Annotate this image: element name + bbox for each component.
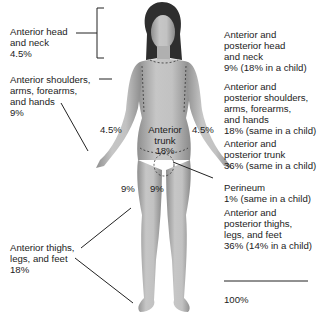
- left-arm: [96, 62, 142, 168]
- label-anterior-legs: Anterior thighs, legs, and feet 18%: [10, 242, 75, 275]
- face: [151, 15, 175, 49]
- label-anterior-arms: Anterior shoulders, arms, forearms, and …: [10, 74, 91, 118]
- head-bracket: [97, 8, 104, 58]
- right-leg: [166, 160, 191, 312]
- figure-label-right-thigh: 9%: [150, 184, 164, 195]
- label-anterior-head-neck: Anterior head and neck 4.5%: [10, 26, 68, 59]
- label-perineum: Perineum 1% (same in a child): [224, 182, 311, 204]
- label-ant-post-trunk: Anterior and posterior trunk 36% (same i…: [224, 138, 316, 171]
- figure-label-left-thigh: 9%: [121, 184, 135, 195]
- label-total: 100%: [224, 294, 249, 305]
- figure-label-left-arm: 4.5%: [100, 125, 122, 136]
- label-ant-post-arms: Anterior and posterior shoulders, arms, …: [224, 81, 316, 136]
- figure-label-right-arm: 4.5%: [192, 125, 214, 136]
- label-ant-post-legs: Anterior and posterior thighs, legs, and…: [224, 207, 312, 251]
- label-ant-post-head-neck: Anterior and posterior head and neck 9% …: [224, 29, 307, 73]
- figure-label-trunk: Anterior trunk 18%: [142, 125, 188, 157]
